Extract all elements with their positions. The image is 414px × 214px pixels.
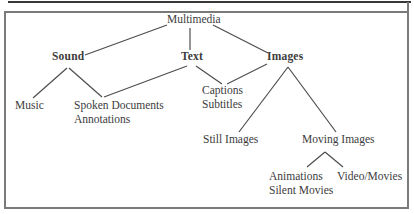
edge-images-moving-images xyxy=(288,67,336,132)
node-spoken-documents-annotations: Spoken Documents Annotations xyxy=(74,98,164,126)
node-sound: Sound xyxy=(52,49,84,63)
node-spoken-documents-line1: Spoken Documents xyxy=(74,98,164,112)
node-multimedia: Multimedia xyxy=(167,12,221,26)
edge-sound-spoken-documents xyxy=(69,68,102,97)
edge-images-still-images xyxy=(239,67,288,132)
node-moving-images: Moving Images xyxy=(302,132,375,146)
edge-multimedia-sound xyxy=(85,25,167,55)
node-animations-silent-movies: Animations Silent Movies xyxy=(269,169,333,197)
node-images: Images xyxy=(267,49,303,63)
edge-text-captions xyxy=(196,66,222,84)
multimedia-tree-diagram: Multimedia Sound Text Images Music Spoke… xyxy=(0,0,414,214)
node-music: Music xyxy=(15,98,44,112)
node-still-images: Still Images xyxy=(203,132,258,146)
node-text: Text xyxy=(181,49,203,63)
node-video-movies: Video/Movies xyxy=(337,169,402,183)
node-spoken-documents-line2: Annotations xyxy=(74,112,164,126)
node-animations-line1: Animations xyxy=(269,169,333,183)
edge-moving-images-video-movies xyxy=(325,152,343,167)
edge-sound-music xyxy=(33,68,67,98)
edge-images-captions xyxy=(227,64,267,84)
node-animations-line2: Silent Movies xyxy=(269,183,333,197)
node-captions-line1: Captions xyxy=(202,83,243,97)
edge-multimedia-images xyxy=(213,25,268,53)
node-captions-line2: Subtitles xyxy=(202,97,243,111)
node-captions-subtitles: Captions Subtitles xyxy=(202,83,243,111)
edge-moving-images-animations xyxy=(307,152,325,167)
edge-text-spoken-documents xyxy=(104,66,187,97)
